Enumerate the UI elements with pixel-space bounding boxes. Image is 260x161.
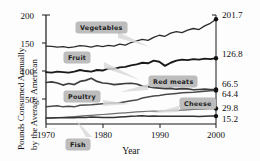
end-value-red-meats: 66.5 xyxy=(222,80,238,89)
consumption-line-chart: Pounds Consumed Annually by the Average … xyxy=(0,0,260,161)
callout-vegetables[interactable]: Vegetables xyxy=(76,22,127,33)
callout-red-meats[interactable]: Red meats xyxy=(149,76,197,87)
callout-leader xyxy=(152,106,179,113)
end-marker-fruit xyxy=(214,56,218,60)
end-marker-fish xyxy=(214,114,218,118)
x-axis-title: Year xyxy=(96,146,166,156)
end-marker-poultry xyxy=(214,88,218,92)
callout-cheese[interactable]: Cheese xyxy=(180,98,216,109)
callout-fruit[interactable]: Fruit xyxy=(64,52,90,63)
x-tick-1970: 1970 xyxy=(29,131,63,140)
end-value-vegetables: 201.7 xyxy=(222,11,243,20)
callout-fish[interactable]: Fish xyxy=(66,139,90,150)
end-marker-vegetables xyxy=(214,17,218,21)
end-value-fruit: 126.8 xyxy=(222,50,243,59)
end-value-cheese: 29.8 xyxy=(222,104,238,113)
x-tick-1980: 1980 xyxy=(86,131,120,140)
callout-poultry[interactable]: Poultry xyxy=(64,91,100,102)
series-line-vegetables xyxy=(46,19,216,47)
x-tick-1990: 1990 xyxy=(143,131,177,140)
end-value-fish: 15.2 xyxy=(222,115,238,124)
end-value-poultry: 64.4 xyxy=(222,90,238,99)
callout-leader xyxy=(120,84,148,92)
x-tick-2000: 2000 xyxy=(199,131,233,140)
axes xyxy=(42,15,216,128)
